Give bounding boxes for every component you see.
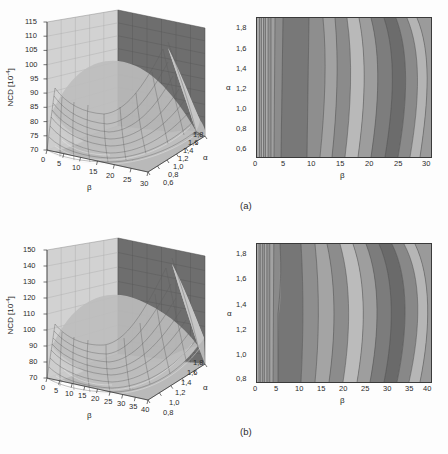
x-tick-b: 5 xyxy=(54,387,58,395)
z-tick-b: 90 xyxy=(29,342,37,350)
y-tick-contour-a: 1,2 xyxy=(236,85,246,93)
y-tick-b: 1,6 xyxy=(187,369,197,377)
z-tick-a: 85 xyxy=(30,103,38,111)
z-tick-a: 115 xyxy=(25,18,37,26)
y-tick-contour-b: 1,2 xyxy=(236,326,246,334)
x-tick-contour-b: 0 xyxy=(253,385,257,393)
x-tick-a: 25 xyxy=(123,176,131,184)
z-tick-a: 105 xyxy=(25,46,38,54)
x-tick-contour-a: 20 xyxy=(365,160,373,168)
x-axis-label-contour-b: β xyxy=(340,397,345,405)
y-tick-contour-a: 0,8 xyxy=(236,125,246,133)
surface-plot-b: 150 140 130 120 110 100 90 80 70 NCD [10… xyxy=(0,228,224,443)
y-tick-contour-a: 1,0 xyxy=(236,105,246,113)
x-tick-contour-b: 5 xyxy=(274,385,278,393)
x-tick-contour-a: 10 xyxy=(307,160,315,168)
z-tick-a: 100 xyxy=(25,61,38,69)
x-tick-contour-b: 10 xyxy=(295,385,303,393)
x-axis-label-b: β xyxy=(87,412,92,420)
z-tick-a: 75 xyxy=(30,132,38,140)
x-tick-b: 40 xyxy=(141,406,149,414)
z-tick-a: 110 xyxy=(25,32,37,40)
x-tick-contour-b: 40 xyxy=(423,385,431,393)
x-tick-a: 10 xyxy=(72,164,80,172)
x-tick-contour-b: 15 xyxy=(317,385,325,393)
z-tick-b: 100 xyxy=(23,326,36,334)
y-tick-contour-b: 1,0 xyxy=(236,351,246,359)
contour-plot-b xyxy=(256,243,432,383)
contour-plot-a xyxy=(256,17,432,158)
y-axis-label-b: α xyxy=(203,384,208,392)
x-tick-contour-b: 35 xyxy=(405,385,413,393)
z-tick-b: 70 xyxy=(29,374,37,382)
y-tick-b: 1,0 xyxy=(169,399,179,407)
y-tick-contour-a: 1,4 xyxy=(236,65,246,73)
y-tick-a: 0,6 xyxy=(163,179,173,187)
x-tick-a: 5 xyxy=(57,160,61,168)
panel-a-label: (a) xyxy=(240,200,252,211)
z-tick-a: 95 xyxy=(30,75,38,83)
x-tick-a: 0 xyxy=(41,156,45,164)
y-tick-contour-b: 0,8 xyxy=(236,375,246,383)
x-tick-b: 10 xyxy=(65,390,73,398)
x-tick-b: 25 xyxy=(104,398,112,406)
x-tick-contour-a: 25 xyxy=(394,160,402,168)
y-axis-label-contour-a: α xyxy=(226,84,231,92)
y-tick-contour-b: 1,8 xyxy=(236,250,246,258)
z-tick-a: 90 xyxy=(30,89,38,97)
y-tick-contour-a: 1,8 xyxy=(236,24,246,32)
y-axis-label-contour-b: α xyxy=(227,310,232,318)
y-tick-contour-a: 1,6 xyxy=(236,45,246,53)
z-tick-b: 110 xyxy=(23,310,35,318)
x-tick-contour-a: 30 xyxy=(422,160,430,168)
x-axis-label-contour-a: β xyxy=(340,172,345,180)
x-tick-contour-b: 25 xyxy=(361,385,369,393)
x-tick-b: 15 xyxy=(78,392,86,400)
z-axis-label-b: NCD [10-4] xyxy=(5,296,16,334)
y-tick-b: 1,4 xyxy=(181,379,191,387)
y-tick-contour-b: 1,6 xyxy=(236,275,246,283)
x-tick-a: 15 xyxy=(89,168,97,176)
z-tick-b: 120 xyxy=(23,294,36,302)
z-tick-a: 80 xyxy=(30,118,38,126)
z-tick-b: 80 xyxy=(29,358,37,366)
x-tick-contour-a: 0 xyxy=(253,160,257,168)
x-tick-b: 30 xyxy=(117,400,125,408)
panel-b-label: (b) xyxy=(240,426,252,437)
contour-plot-b-canvas xyxy=(257,244,431,382)
contour-plot-a-canvas xyxy=(257,18,431,157)
x-tick-contour-a: 15 xyxy=(336,160,344,168)
x-tick-contour-b: 30 xyxy=(383,385,391,393)
figure-container: 115 110 105 100 95 90 85 80 75 70 NCD [1… xyxy=(0,0,448,454)
z-tick-b: 140 xyxy=(23,262,36,270)
z-tick-b: 150 xyxy=(23,246,36,254)
x-tick-a: 30 xyxy=(140,180,148,188)
y-tick-contour-b: 1,4 xyxy=(236,301,246,309)
y-tick-b: 0,8 xyxy=(163,409,173,417)
x-tick-contour-a: 5 xyxy=(281,160,285,168)
x-tick-contour-b: 20 xyxy=(339,385,347,393)
y-tick-contour-a: 0,6 xyxy=(236,145,246,153)
x-tick-b: 35 xyxy=(129,403,137,411)
z-tick-b: 130 xyxy=(23,278,36,286)
x-tick-a: 20 xyxy=(106,172,114,180)
x-axis-label-a: β xyxy=(87,184,92,192)
x-tick-b: 20 xyxy=(91,395,99,403)
z-tick-a: 70 xyxy=(30,146,38,154)
z-axis-label-a: NCD [10-4] xyxy=(5,68,16,106)
y-axis-label-a: α xyxy=(203,154,208,162)
surface-plot-a: 115 110 105 100 95 90 85 80 75 70 NCD [1… xyxy=(0,0,224,215)
x-tick-b: 0 xyxy=(41,384,45,392)
y-tick-b: 1,2 xyxy=(175,389,185,397)
y-tick-b: 1,8 xyxy=(193,359,203,367)
